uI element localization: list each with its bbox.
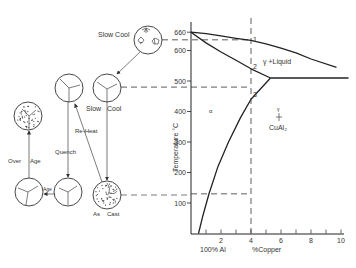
microstructure-reheated	[55, 74, 83, 102]
label-age: Age	[43, 186, 52, 192]
region-label-liquid: γ +Liquid	[263, 58, 291, 66]
precipitate-dot	[115, 200, 116, 201]
precipitate-dot	[27, 121, 28, 122]
precipitate-dot	[99, 190, 100, 191]
label-reheat: Re-Heat	[75, 128, 98, 134]
diagram-canvas: 660600500400300200100 246810 Temperature…	[0, 0, 356, 268]
precipitate-dot	[105, 185, 106, 186]
point-label-3: 3	[253, 91, 257, 98]
point-label-2: 2	[253, 63, 257, 70]
precipitate-dot	[96, 195, 97, 196]
precipitate-dot	[38, 121, 39, 122]
precipitate-dot	[24, 110, 25, 111]
precipitate-dot	[116, 189, 117, 190]
microstructure-over-aged	[14, 102, 42, 130]
precipitate-dot	[26, 115, 27, 116]
x-tick-label: 10	[337, 237, 345, 244]
compound-symbol: γ	[277, 106, 280, 112]
precipitate-dot	[32, 114, 33, 115]
precipitate-dot	[31, 120, 32, 121]
label-as: As	[93, 211, 100, 217]
precipitate-dot	[20, 120, 21, 121]
precipitate-dot	[98, 201, 99, 202]
microstructure-slow-cool-solid	[93, 74, 121, 102]
x-tick-label: 4	[249, 237, 253, 244]
phase-diagram: 660600500400300200100 246810 Temperature…	[121, 18, 349, 254]
region-label-cual2: CuAl₂	[269, 124, 287, 131]
precipitate-dot	[27, 106, 28, 107]
precipitate-dot	[101, 185, 102, 186]
y-tick-label: 600	[174, 47, 186, 54]
point-label-1: 1	[253, 36, 257, 43]
precipitate-dot	[116, 198, 117, 199]
x-axis-label: %Copper	[252, 246, 282, 254]
precipitate-dot	[18, 116, 19, 117]
x-axis-origin-label: 100% Al	[200, 246, 226, 253]
label-cast: Cast	[107, 211, 120, 217]
y-tick-label: 660	[174, 29, 186, 36]
precipitate-dot	[109, 197, 110, 198]
arrow-slow-cool-top	[117, 52, 140, 74]
x-tick-label: 6	[279, 237, 283, 244]
precipitate-dot	[24, 122, 25, 123]
precipitate-dot	[23, 106, 24, 107]
precipitate-dot	[22, 116, 23, 117]
microstructure-as-cast	[93, 181, 121, 209]
precipitate-dot	[115, 202, 116, 203]
precipitate-dot	[113, 191, 114, 192]
precipitate-dot	[95, 191, 96, 192]
precipitate-dot	[22, 115, 23, 116]
precipitate-dot	[112, 189, 113, 190]
label-slow: Slow	[86, 105, 102, 112]
precipitate-dot	[37, 110, 38, 111]
precipitate-dot	[109, 183, 110, 184]
precipitate-dot	[107, 194, 108, 195]
arrow-reheat	[75, 104, 102, 182]
precipitate-dot	[114, 190, 115, 191]
solvus-curve	[199, 78, 271, 234]
precipitate-dot	[33, 124, 34, 125]
precipitate-dot	[20, 118, 21, 119]
y-tick-label: 500	[174, 78, 186, 85]
y-tick-label: 100	[174, 200, 186, 207]
precipitate-dot	[26, 127, 27, 128]
precipitate-dot	[24, 117, 25, 118]
microstructure-slow-cool-liquid	[134, 26, 162, 54]
region-label-alpha: α	[209, 108, 213, 114]
precipitate-dot	[105, 205, 106, 206]
precipitate-dot	[26, 126, 27, 127]
precipitate-dot	[27, 111, 28, 112]
label-cool: Cool	[107, 105, 122, 112]
precipitate-dot	[17, 120, 18, 121]
precipitate-dot	[108, 187, 109, 188]
precipitate-dot	[96, 198, 97, 199]
x-axis-ticks: 246810	[206, 230, 345, 244]
y-axis-label: Temperature °C	[172, 123, 180, 172]
precipitate-dot	[34, 113, 35, 114]
precipitate-dot	[33, 121, 34, 122]
precipitate-dot	[35, 106, 36, 107]
solidus-curve	[191, 32, 271, 78]
x-tick-label: 8	[309, 237, 313, 244]
precipitate-dot	[97, 187, 98, 188]
point-labels: 123	[253, 36, 257, 98]
precipitate-dot	[112, 199, 113, 200]
precipitate-dot	[106, 194, 107, 195]
microstructures: Slow Cool Slow Cool	[14, 26, 162, 217]
label-over-age: Age	[30, 158, 41, 164]
precipitate-dot	[102, 200, 103, 201]
precipitate-dot	[107, 199, 108, 200]
precipitate-dot	[103, 202, 104, 203]
precipitate-dot	[20, 112, 21, 113]
y-tick-label: 400	[174, 108, 186, 115]
precipitate-dot	[97, 194, 98, 195]
label-slow-cool-top: Slow Cool	[98, 31, 130, 38]
precipitate-dot	[109, 204, 110, 205]
microstructure-quenched	[54, 178, 82, 206]
precipitate-dot	[33, 126, 34, 127]
process-arrows	[29, 52, 191, 195]
precipitate-dot	[113, 202, 114, 203]
precipitate-dot	[110, 202, 111, 203]
precipitate-dot	[115, 186, 116, 187]
precipitate-dot	[102, 188, 103, 189]
